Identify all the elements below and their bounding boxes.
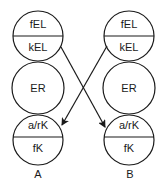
column-a-fel-label: fEL [30, 18, 47, 30]
column-a-er-label: ER [30, 82, 45, 94]
column-b-kel-label: kEL [120, 41, 139, 53]
column-b-label: B [126, 168, 133, 180]
column-a-bottom-circle: a/rK fK [13, 115, 63, 165]
column-b: fEL kEL ER a/rK fK B [103, 11, 155, 180]
arrow-b-kel-to-a-ark [62, 46, 107, 125]
column-b-er-label: ER [121, 82, 136, 94]
column-a-fk-label: fK [33, 142, 44, 154]
column-b-top-circle: fEL kEL [104, 11, 154, 61]
column-a-top-circle: fEL kEL [13, 11, 63, 61]
column-a-ark-label: a/rK [28, 119, 49, 131]
column-b-bottom-circle: a/rK fK [104, 115, 154, 165]
column-b-ark-label: a/rK [119, 119, 140, 131]
column-a-middle-circle: ER [12, 62, 64, 114]
column-b-fk-label: fK [124, 142, 135, 154]
column-a-kel-label: kEL [29, 41, 48, 53]
column-b-fel-label: fEL [121, 18, 138, 30]
column-a: fEL kEL ER a/rK fK A [12, 11, 64, 180]
column-a-label: A [34, 168, 42, 180]
crossover-diagram: fEL kEL ER a/rK fK A fEL kEL ER [0, 0, 166, 189]
column-b-middle-circle: ER [103, 62, 155, 114]
